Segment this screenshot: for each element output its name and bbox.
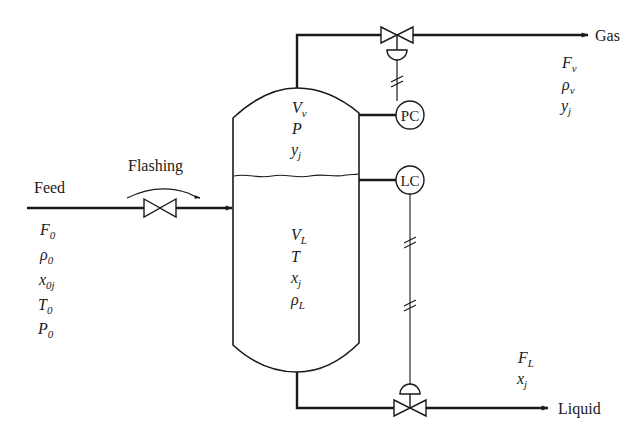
vapor-var-volume: Vv [292,99,307,119]
level-controller[interactable]: LC [359,166,424,384]
feed-variables: F0 ρ0 x0j T0 P0 [37,221,56,340]
feed-flashing-valve-icon[interactable] [144,199,176,217]
liquid-var-composition: xj [516,370,527,390]
vapor-var-pressure: P [291,120,302,137]
feed-var-flow: F0 [39,221,56,241]
gas-var-composition: yj [559,97,571,117]
gas-pipe-riser [297,35,381,88]
feed-var-density: ρ0 [39,246,54,266]
gas-label: Gas [595,27,620,44]
liquid-stream [297,372,548,416]
liquid-level-surface [234,174,358,177]
liquid-phase-var-composition: xj [290,269,301,289]
feed-var-temperature: T0 [38,296,53,316]
liquid-var-flow: FL [517,349,534,369]
flash-drum-diagram: PC LC Feed Flashing Gas Liquid F0 ρ0 x0j… [0,0,642,438]
gas-stream [297,27,588,101]
gas-var-density: ρv [561,76,575,96]
feed-var-pressure: P0 [37,320,54,340]
liquid-phase-var-temperature: T [291,248,301,265]
lc-label: LC [400,173,419,189]
liquid-valve-actuator-icon [400,384,420,394]
gas-variables: Fv ρv yj [559,54,577,117]
vapor-var-composition: yj [289,141,301,161]
feed-var-composition: x0j [38,271,55,291]
liquid-phase-variables: VL T xj ρL [290,226,307,311]
flashing-label: Flashing [128,157,183,175]
liquid-phase-var-density: ρL [290,291,305,311]
pc-label: PC [401,108,419,124]
vapor-phase-variables: Vv P yj [289,99,307,161]
liquid-phase-var-volume: VL [291,226,307,246]
gas-valve-actuator-icon [387,50,407,60]
gas-var-flow: Fv [561,54,577,74]
liquid-variables: FL xj [516,349,534,390]
feed-label: Feed [34,179,65,196]
liquid-pipe-drain [297,372,394,408]
pressure-controller[interactable]: PC [359,101,424,129]
flashing-arrow-icon [127,189,200,198]
liquid-label: Liquid [558,400,601,418]
